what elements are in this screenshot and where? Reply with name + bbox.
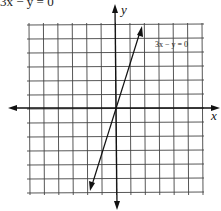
y-axis-label: y	[119, 2, 127, 17]
y-axis-down-arrow-icon	[114, 201, 120, 210]
x-axis-label: x	[210, 108, 217, 123]
line-down-arrow-icon	[89, 181, 95, 191]
x-axis-left-arrow-icon	[8, 105, 17, 111]
line-label: 3x − y = 0	[155, 40, 188, 49]
y-axis-up-arrow-icon	[112, 4, 118, 13]
line-up-arrow-icon	[137, 26, 143, 37]
coordinate-plane: y x 3x − y = 0	[0, 0, 221, 211]
